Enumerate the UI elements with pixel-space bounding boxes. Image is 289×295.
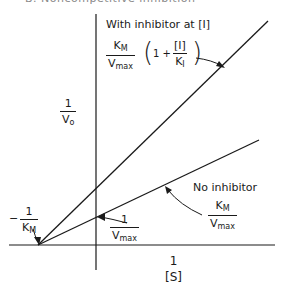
inhibitor-factor-fraction: [I] KI (172, 40, 188, 69)
open-paren: ( (143, 39, 153, 65)
with-inhibitor-label: With inhibitor at [I] (106, 19, 210, 30)
one-plus: 1 + (153, 49, 171, 59)
x-intercept-sign: − (9, 213, 18, 224)
lineweaver-burk-diagram: B. Noncompetitive inhibition With inhibi… (0, 0, 289, 295)
close-paren: ) (192, 39, 202, 65)
with-inhibitor-slope-fraction: KM Vmax (106, 40, 135, 71)
x-intercept-fraction: 1 KM (20, 206, 38, 235)
x-axis-label: 1 [S] (165, 255, 182, 283)
y-axis-label: 1 Vo (60, 98, 76, 127)
arrowhead-icon (97, 213, 105, 221)
no-inhibitor-label: No inhibitor (193, 182, 257, 193)
no-inhibitor-slope-fraction: KM Vmax (208, 200, 237, 231)
y-intercept-fraction: 1 Vmax (110, 214, 139, 243)
